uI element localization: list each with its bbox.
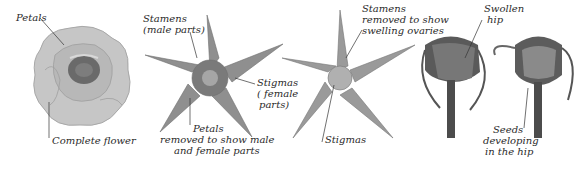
label-stamens-male-parts: (male parts) bbox=[143, 24, 205, 35]
label-stigmas: Stigmas bbox=[325, 134, 366, 145]
label-stamens-male: Stamens bbox=[143, 13, 187, 24]
seeds-developing-hip-illustration bbox=[494, 37, 573, 139]
label-petals: Petals bbox=[16, 12, 47, 23]
label-stigmas-female: Stigmas bbox=[257, 77, 298, 88]
label-seeds: Seeds bbox=[493, 124, 523, 135]
label-petals-removed-3: and female parts bbox=[174, 145, 260, 156]
label-seeds-2: developing bbox=[483, 135, 539, 146]
label-petals-removed-2: removed to show male bbox=[160, 134, 274, 145]
label-stigmas-female-2: ( female bbox=[257, 88, 298, 99]
label-stamens-removed: Stamens bbox=[362, 3, 406, 14]
label-stamens-removed-2: removed to show bbox=[362, 14, 449, 25]
label-swollen-hip-2: hip bbox=[487, 14, 503, 25]
label-stamens-removed-3: swelling ovaries bbox=[362, 25, 444, 36]
swollen-hip-illustration bbox=[422, 37, 485, 139]
label-seeds-3: in the hip bbox=[485, 146, 533, 157]
label-petals-removed: Petals bbox=[193, 123, 224, 134]
label-complete-flower: Complete flower bbox=[52, 135, 136, 146]
complete-flower-illustration bbox=[34, 26, 130, 125]
label-swollen-hip: Swollen bbox=[484, 3, 524, 14]
label-stigmas-female-3: parts) bbox=[259, 99, 289, 110]
